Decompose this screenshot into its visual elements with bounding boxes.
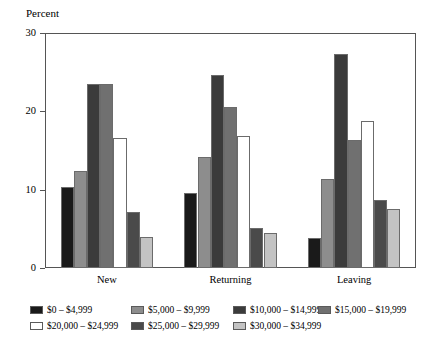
legend-swatch-icon — [30, 322, 43, 330]
chart-legend: $0 – $4,999$5,000 – $9,999$10,000 – $14,… — [30, 303, 420, 335]
y-axis-tick-label: 0 — [31, 261, 36, 274]
bar — [113, 138, 126, 268]
bar — [237, 136, 250, 268]
legend-row: $20,000 – $24,999$25,000 – $29,999$30,00… — [30, 319, 420, 334]
legend-item: $0 – $4,999 — [30, 303, 92, 317]
legend-item-label: $20,000 – $24,999 — [47, 321, 118, 332]
bar — [387, 209, 400, 268]
legend-swatch-icon — [131, 322, 144, 330]
legend-item: $15,000 – $19,999 — [318, 303, 406, 317]
bar — [361, 121, 374, 268]
y-axis-tick: 30 — [0, 33, 45, 34]
bar — [348, 140, 361, 268]
bar — [100, 84, 113, 268]
y-axis-tick-label: 10 — [26, 183, 37, 196]
bar — [140, 237, 153, 268]
legend-swatch-icon — [318, 306, 331, 314]
bar — [321, 179, 334, 268]
legend-item: $20,000 – $24,999 — [30, 319, 118, 333]
y-axis-title: Percent — [26, 7, 59, 19]
bar — [127, 212, 140, 268]
bar — [308, 238, 321, 268]
x-axis-label-leaving: Leaving — [292, 273, 416, 286]
legend-swatch-icon — [233, 306, 246, 314]
legend-item-label: $0 – $4,999 — [47, 305, 92, 316]
legend-item-label: $5,000 – $9,999 — [148, 305, 210, 316]
legend-swatch-icon — [131, 306, 144, 314]
bar — [264, 233, 277, 268]
y-axis-tick: 0 — [0, 268, 45, 269]
legend-swatch-icon — [233, 322, 246, 330]
y-axis-tick-mark — [40, 268, 45, 269]
legend-item-label: $25,000 – $29,999 — [148, 321, 219, 332]
legend-item-label: $10,000 – $14,999 — [250, 305, 321, 316]
y-axis-tick: 20 — [0, 111, 45, 112]
bar — [87, 84, 100, 268]
bars-layer — [45, 33, 416, 268]
legend-swatch-icon — [30, 306, 43, 314]
x-axis-label-new: New — [45, 273, 169, 286]
legend-item-label: $30,000 – $34,999 — [250, 321, 321, 332]
bar — [74, 171, 87, 268]
y-axis-tick: 10 — [0, 190, 45, 191]
y-axis-tick-label: 30 — [26, 26, 37, 39]
bar — [224, 107, 237, 268]
bar — [250, 228, 263, 268]
legend-item: $5,000 – $9,999 — [131, 303, 210, 317]
y-axis-tick-label: 20 — [26, 104, 37, 117]
bar — [61, 187, 74, 268]
bar — [211, 75, 224, 268]
bar-chart-figure: Percent 0102030 NewReturningLeaving $0 –… — [0, 0, 426, 339]
bar — [374, 200, 387, 268]
legend-item: $30,000 – $34,999 — [233, 319, 321, 333]
x-axis-label-returning: Returning — [169, 273, 293, 286]
legend-item-label: $15,000 – $19,999 — [335, 305, 406, 316]
bar — [198, 157, 211, 268]
bar — [334, 54, 347, 268]
bar — [184, 193, 197, 268]
legend-item: $25,000 – $29,999 — [131, 319, 219, 333]
legend-row: $0 – $4,999$5,000 – $9,999$10,000 – $14,… — [30, 303, 420, 318]
legend-item: $10,000 – $14,999 — [233, 303, 321, 317]
